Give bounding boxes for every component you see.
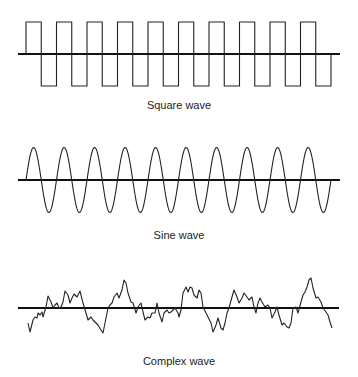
complex-wave-curve: [28, 278, 332, 333]
square-wave-curve: [26, 22, 331, 86]
square-wave-panel: [18, 22, 340, 86]
sine-wave-curve: [26, 148, 331, 213]
waveform-diagram: [0, 0, 358, 377]
complex-wave-label: Complex wave: [0, 355, 358, 367]
complex-wave-panel: [18, 278, 339, 333]
square-wave-label: Square wave: [0, 99, 358, 111]
sine-wave-panel: [18, 148, 340, 213]
sine-wave-label: Sine wave: [0, 229, 358, 241]
